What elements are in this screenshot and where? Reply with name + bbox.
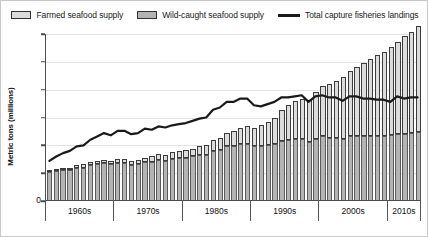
- bar-segment-farmed: [348, 71, 353, 137]
- bar-column: [108, 161, 113, 201]
- bar-segment-farmed: [149, 156, 154, 162]
- bar-column: [224, 133, 229, 201]
- bar-segment-wild: [382, 136, 387, 201]
- bar-segment-wild: [88, 165, 93, 201]
- bar-segment-wild: [341, 139, 346, 201]
- bar-segment-farmed: [122, 159, 127, 163]
- x-axis-group-1980s: 1980s: [182, 201, 250, 221]
- bar-column: [389, 47, 394, 201]
- bar-segment-wild: [300, 139, 305, 201]
- bar-column: [279, 110, 284, 201]
- bar-segment-farmed: [54, 169, 59, 171]
- bar-column: [122, 159, 127, 201]
- chart-figure: Farmed seafood supply Wild-caught seafoo…: [0, 0, 428, 237]
- bar-segment-wild: [279, 141, 284, 201]
- bar-segment-farmed: [307, 100, 312, 142]
- x-axis-group-1960s: 1960s: [45, 201, 113, 221]
- bar-segment-wild: [231, 146, 236, 201]
- bar-column: [170, 152, 175, 201]
- bar-segment-wild: [177, 158, 182, 201]
- bar-segment-farmed: [88, 162, 93, 165]
- bar-segment-farmed: [108, 161, 113, 164]
- farmed-swatch-icon: [11, 11, 31, 19]
- bar-segment-wild: [409, 133, 414, 201]
- bar-segment-farmed: [259, 125, 264, 146]
- bar-segment-wild: [211, 151, 216, 201]
- bar-column: [313, 92, 318, 201]
- bar-segment-farmed: [266, 122, 271, 145]
- bar-column: [402, 36, 407, 201]
- y-axis-title-text: Metric tons (millions): [6, 87, 15, 165]
- bar-segment-farmed: [300, 99, 305, 139]
- bar-column: [67, 168, 72, 201]
- plot-area: [45, 34, 421, 201]
- bar-column: [54, 169, 59, 201]
- bar-segment-farmed: [74, 165, 79, 167]
- bar-segment-wild: [136, 164, 141, 201]
- bar-column: [272, 118, 277, 202]
- bar-segment-farmed: [47, 170, 52, 172]
- x-axis-group-2000s: 2000s: [318, 201, 386, 221]
- x-axis-group-label: 2000s: [342, 206, 365, 216]
- x-axis-group-label: 1970s: [136, 206, 159, 216]
- bar-column: [266, 122, 271, 201]
- bar-segment-farmed: [313, 92, 318, 139]
- bar-column: [348, 71, 353, 201]
- bar-segment-farmed: [197, 146, 202, 155]
- bar-segment-wild: [129, 165, 134, 201]
- bar-segment-wild: [272, 144, 277, 201]
- bar-column: [101, 160, 106, 201]
- bar-segment-wild: [204, 155, 209, 201]
- bar-column: [156, 154, 161, 201]
- bar-segment-farmed: [409, 32, 414, 133]
- bar-segment-farmed: [218, 138, 223, 150]
- bar-segment-wild: [286, 140, 291, 201]
- bar-column: [142, 158, 147, 201]
- bar-segment-farmed: [81, 164, 86, 167]
- bar-segment-wild: [218, 150, 223, 201]
- bar-segment-wild: [361, 136, 366, 201]
- wild-swatch-icon: [137, 11, 157, 19]
- bar-segment-wild: [327, 138, 332, 201]
- bar-column: [115, 159, 120, 201]
- bar-segment-farmed: [60, 168, 65, 170]
- bar-column: [416, 26, 421, 201]
- bar-segment-wild: [389, 135, 394, 201]
- y-tick-mark: [41, 89, 45, 91]
- legend-item-farmed: Farmed seafood supply: [11, 10, 123, 20]
- bar-column: [88, 162, 93, 201]
- bar-segment-wild: [81, 168, 86, 201]
- bar-segment-farmed: [293, 101, 298, 139]
- bar-column: [259, 125, 264, 201]
- bar-segment-wild: [101, 163, 106, 201]
- y-tick-mark: [41, 61, 45, 63]
- bar-segment-wild: [416, 132, 421, 201]
- bar-segment-farmed: [67, 168, 72, 170]
- bar-column: [129, 161, 134, 201]
- bar-segment-farmed: [142, 158, 147, 162]
- bar-segment-farmed: [416, 26, 421, 132]
- bar-segment-wild: [368, 136, 373, 201]
- x-axis-group-1990s: 1990s: [250, 201, 318, 221]
- bar-segment-wild: [293, 139, 298, 201]
- bar-segment-farmed: [395, 42, 400, 134]
- bar-segment-farmed: [245, 126, 250, 144]
- bar-column: [163, 155, 168, 201]
- bar-column: [409, 32, 414, 201]
- legend-label-farmed: Farmed seafood supply: [36, 10, 123, 20]
- bar-segment-farmed: [204, 145, 209, 155]
- x-axis-group-label: 1960s: [68, 206, 91, 216]
- bar-column: [211, 140, 216, 201]
- bar-segment-wild: [163, 161, 168, 201]
- bar-column: [341, 77, 346, 201]
- bar-segment-farmed: [402, 36, 407, 134]
- x-axis-group-label: 2010s: [392, 206, 415, 216]
- bar-segment-wild: [334, 138, 339, 201]
- bar-segment-farmed: [190, 149, 195, 157]
- bar-column: [81, 164, 86, 201]
- bar-segment-farmed: [341, 77, 346, 138]
- bar-segment-wild: [348, 136, 353, 201]
- bar-column: [293, 101, 298, 201]
- bar-segment-farmed: [327, 84, 332, 137]
- bar-segment-farmed: [252, 128, 257, 147]
